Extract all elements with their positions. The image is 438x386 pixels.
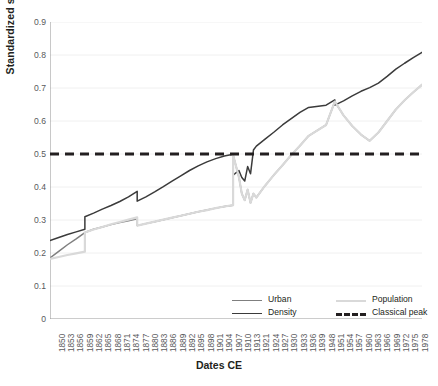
x-tick-label: 1892 <box>188 334 197 352</box>
x-tick-label: 1862 <box>95 334 104 352</box>
x-tick-label: 1856 <box>76 334 85 352</box>
x-tick-label: 1960 <box>365 334 374 352</box>
x-axis-title: Dates CE <box>0 359 438 371</box>
x-tick-label: 1936 <box>309 334 318 352</box>
x-tick-label: 1859 <box>86 334 95 352</box>
series-line-population <box>50 85 422 259</box>
x-tick-label: 1889 <box>179 334 188 352</box>
x-tick-label: 1865 <box>104 334 113 352</box>
chart-legend: UrbanPopulationDensityClassical peak <box>232 294 430 320</box>
x-tick-label: 1913 <box>253 334 262 352</box>
x-tick-label: 1972 <box>402 334 411 352</box>
y-tick-label: 0.6 <box>20 116 46 126</box>
x-tick-label: 1886 <box>169 334 178 352</box>
legend-label-population: Population <box>372 294 413 304</box>
x-tick-label: 1874 <box>132 334 141 352</box>
x-tick-label: 1957 <box>355 334 364 352</box>
x-axis-tick-labels: 1850185318561859186218651868187118741877… <box>0 322 438 362</box>
x-tick-label: 1910 <box>244 334 253 352</box>
series-line-density <box>50 52 422 240</box>
chart-figure: Standardized scale 00.10.20.30.40.50.60.… <box>0 0 438 386</box>
legend-swatch-classical-peak <box>336 313 366 316</box>
y-tick-label: 0.1 <box>20 281 46 291</box>
x-tick-label: 1954 <box>346 334 355 352</box>
x-tick-label: 1850 <box>58 334 67 352</box>
legend-label-density: Density <box>268 307 297 317</box>
x-tick-label: 1895 <box>197 334 206 352</box>
x-tick-label: 1883 <box>160 334 169 352</box>
x-tick-label: 1927 <box>281 334 290 352</box>
x-tick-label: 1921 <box>262 334 271 352</box>
y-tick-label: 0.3 <box>20 215 46 225</box>
series-line-urban <box>50 85 422 258</box>
y-tick-label: 0.9 <box>20 17 46 27</box>
x-tick-label: 1933 <box>300 334 309 352</box>
x-tick-label: 1975 <box>411 334 420 352</box>
x-tick-label: 1871 <box>123 334 132 352</box>
x-tick-label: 1966 <box>383 334 392 352</box>
x-tick-label: 1963 <box>374 334 383 352</box>
x-tick-label: 1969 <box>393 334 402 352</box>
y-tick-label: 0.8 <box>20 50 46 60</box>
x-tick-label: 1924 <box>272 334 281 352</box>
chart-canvas <box>50 22 422 319</box>
legend-swatch-urban <box>232 300 262 301</box>
x-tick-label: 1853 <box>67 334 76 352</box>
y-tick-label: 0.5 <box>20 149 46 159</box>
x-tick-label: 1978 <box>421 334 430 352</box>
x-tick-label: 1868 <box>114 334 123 352</box>
legend-label-urban: Urban <box>268 294 291 304</box>
x-tick-label: 1904 <box>225 334 234 352</box>
x-tick-label: 1939 <box>318 334 327 352</box>
y-tick-label: 0.2 <box>20 248 46 258</box>
x-tick-label: 1901 <box>216 334 225 352</box>
legend-swatch-density <box>232 313 262 314</box>
y-tick-label: 0.4 <box>20 182 46 192</box>
x-tick-label: 1930 <box>290 334 299 352</box>
legend-swatch-population <box>336 300 366 302</box>
x-tick-label: 1948 <box>328 334 337 352</box>
legend-label-classical-peak: Classical peak <box>372 307 427 317</box>
x-tick-label: 1880 <box>151 334 160 352</box>
x-tick-label: 1907 <box>235 334 244 352</box>
x-tick-label: 1877 <box>142 334 151 352</box>
x-tick-label: 1898 <box>207 334 216 352</box>
x-tick-label: 1951 <box>337 334 346 352</box>
y-tick-label: 0.7 <box>20 83 46 93</box>
plot-area <box>50 22 422 319</box>
